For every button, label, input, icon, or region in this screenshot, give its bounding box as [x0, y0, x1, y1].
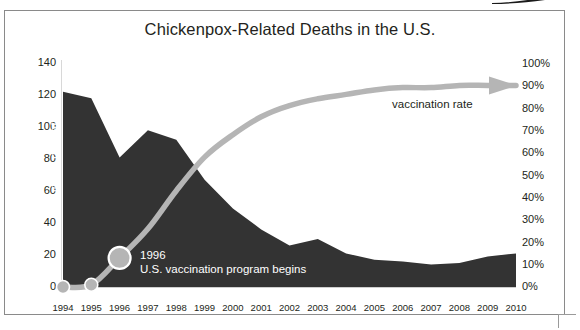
annotation-year: 1996: [140, 248, 306, 262]
marker-1995: [85, 278, 98, 291]
chart-plot-area: 0 20 40 60 80 100 120 140 0% 10% 20% 30%…: [0, 0, 580, 330]
vaccination-rate-arrowhead: [489, 76, 517, 94]
vaccination-program-annotation: 1996 U.S. vaccination program begins: [140, 248, 306, 276]
marker-1994: [57, 281, 70, 294]
marker-1996: [109, 247, 131, 269]
annotation-text: U.S. vaccination program begins: [140, 262, 306, 276]
x-tick-2010: 2010: [499, 303, 533, 313]
vaccination-rate-label: vaccination rate: [392, 98, 473, 110]
chart-graphics-layer: [0, 0, 580, 330]
